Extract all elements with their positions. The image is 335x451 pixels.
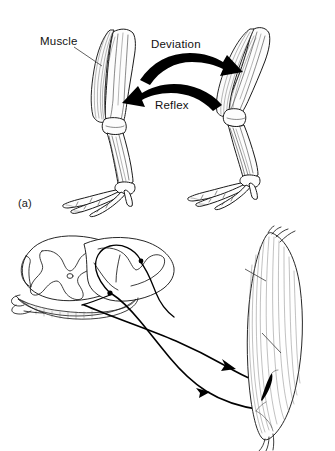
foot-left	[63, 190, 133, 217]
figure-root: .ln { fill:none; stroke:#1b1b1b; stroke-…	[0, 0, 335, 451]
label-muscle-panel-a: Muscle	[40, 35, 78, 47]
label-reflex: Reflex	[155, 99, 189, 111]
foot-right	[188, 183, 258, 210]
skeletal-muscle	[247, 226, 302, 451]
panel-b: .b-ln { fill:none; stroke:#1b1b1b; strok…	[0, 225, 335, 451]
panel-a: .ln { fill:none; stroke:#1b1b1b; stroke-…	[0, 0, 335, 225]
panel-a-illustration: .ln { fill:none; stroke:#1b1b1b; stroke-…	[0, 0, 335, 225]
panel-label-a: (a)	[18, 197, 32, 209]
limb-left	[63, 29, 136, 217]
label-deviation: Deviation	[151, 38, 201, 50]
efferent-nerve-fiber	[84, 305, 266, 415]
panel-b-illustration: .b-ln { fill:none; stroke:#1b1b1b; strok…	[0, 225, 335, 451]
